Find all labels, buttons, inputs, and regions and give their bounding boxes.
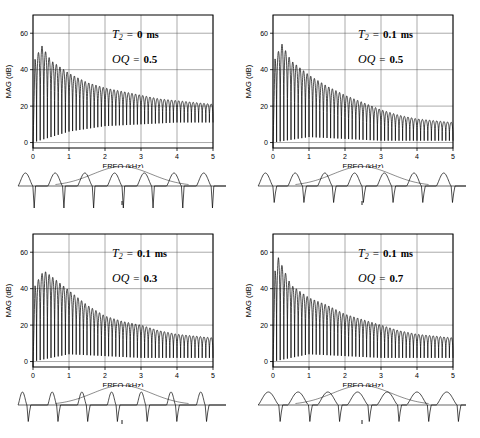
waveform-trace — [258, 392, 466, 422]
x-tick-label: 3 — [139, 153, 143, 160]
x-tick-label: 1 — [307, 153, 311, 160]
y-tick-label: 0 — [24, 358, 28, 365]
window-envelope-arc — [55, 386, 188, 404]
panel-top-left: 0123450204060FREQ (kHz)MAG (dB) T2=0 ms … — [0, 0, 240, 219]
t2-symbol: T — [358, 27, 365, 41]
window-envelope-arc — [295, 386, 428, 404]
y-tick-label: 60 — [20, 249, 28, 256]
equals-sign: = — [369, 247, 383, 259]
y-axis-label: MAG (dB) — [4, 283, 13, 317]
y-axis-label: MAG (dB) — [4, 64, 13, 98]
y-tick-label: 40 — [260, 66, 268, 73]
x-tick-label: 4 — [415, 372, 419, 379]
oq-value: 0.7 — [390, 272, 404, 284]
waveform-trace — [18, 392, 226, 422]
oq-symbol: OQ — [112, 52, 129, 66]
x-tick-label: 0 — [31, 372, 35, 379]
oq-value: 0.5 — [144, 53, 158, 65]
t2-unit: ms — [146, 29, 158, 40]
x-tick-label: 4 — [175, 372, 179, 379]
annotation-t2-bottom-right: T2=0.1 ms — [358, 243, 413, 261]
y-tick-label: 40 — [20, 285, 28, 292]
oq-symbol: OQ — [358, 52, 375, 66]
waveform-strip-top-left — [0, 164, 240, 219]
t2-value: 0 — [137, 28, 143, 40]
x-tick-label: 1 — [67, 153, 71, 160]
t2-symbol: T — [112, 27, 119, 41]
equals-sign: = — [369, 28, 383, 40]
x-tick-label: 0 — [271, 372, 275, 379]
y-tick-label: 60 — [260, 30, 268, 37]
waveform-strip-bottom-right — [240, 383, 480, 438]
y-axis-label: MAG (dB) — [244, 64, 253, 98]
x-tick-label: 5 — [211, 372, 215, 379]
x-tick-label: 3 — [139, 372, 143, 379]
oq-symbol: OQ — [112, 271, 129, 285]
x-tick-label: 2 — [103, 153, 107, 160]
t2-value: 0.1 — [383, 28, 397, 40]
y-tick-label: 0 — [264, 139, 268, 146]
x-tick-label: 0 — [271, 153, 275, 160]
t2-value: 0.1 — [137, 247, 151, 259]
x-tick-label: 5 — [451, 372, 455, 379]
panel-top-right: 0123450204060FREQ (kHz)MAG (dB) T2=0.1 m… — [240, 0, 480, 219]
equals-sign: = — [129, 272, 143, 284]
y-axis-label: MAG (dB) — [244, 283, 253, 317]
waveform-svg — [240, 383, 480, 438]
equals-sign: = — [123, 28, 137, 40]
annotation-oq-bottom-left: OQ=0.3 — [112, 268, 157, 286]
y-tick-label: 40 — [20, 66, 28, 73]
annotation-oq-top-left: OQ=0.5 — [112, 49, 157, 67]
spectrum-trace — [33, 272, 213, 367]
t2-unit: ms — [401, 29, 413, 40]
annotation-oq-top-right: OQ=0.5 — [358, 49, 403, 67]
y-tick-label: 20 — [20, 322, 28, 329]
waveform-svg — [0, 164, 240, 219]
equals-sign: = — [123, 247, 137, 259]
figure-glottal-source-spectra: 0123450204060FREQ (kHz)MAG (dB) T2=0 ms … — [0, 0, 480, 438]
annotation-t2-top-right: T2=0.1 ms — [358, 24, 413, 42]
y-tick-label: 20 — [20, 103, 28, 110]
x-tick-label: 5 — [451, 153, 455, 160]
x-tick-label: 4 — [415, 153, 419, 160]
t2-symbol: T — [358, 246, 365, 260]
oq-value: 0.3 — [144, 272, 158, 284]
x-tick-label: 2 — [343, 153, 347, 160]
y-tick-label: 20 — [260, 103, 268, 110]
y-tick-label: 60 — [260, 249, 268, 256]
oq-symbol: OQ — [358, 271, 375, 285]
waveform-strip-bottom-left — [0, 383, 240, 438]
y-tick-label: 0 — [264, 358, 268, 365]
y-tick-label: 60 — [20, 30, 28, 37]
oq-value: 0.5 — [390, 53, 404, 65]
x-tick-label: 5 — [211, 153, 215, 160]
equals-sign: = — [375, 53, 389, 65]
waveform-svg — [240, 164, 480, 219]
equals-sign: = — [375, 272, 389, 284]
x-tick-label: 1 — [307, 372, 311, 379]
y-tick-label: 20 — [260, 322, 268, 329]
waveform-svg — [0, 383, 240, 438]
x-tick-label: 2 — [343, 372, 347, 379]
t2-unit: ms — [401, 248, 413, 259]
t2-symbol: T — [112, 246, 119, 260]
annotation-oq-bottom-right: OQ=0.7 — [358, 268, 403, 286]
waveform-strip-top-right — [240, 164, 480, 219]
x-tick-label: 3 — [379, 153, 383, 160]
y-tick-label: 40 — [260, 285, 268, 292]
annotation-t2-bottom-left: T2=0.1 ms — [112, 243, 167, 261]
x-tick-label: 3 — [379, 372, 383, 379]
waveform-trace — [258, 173, 466, 203]
t2-unit: ms — [155, 248, 167, 259]
y-tick-label: 0 — [24, 139, 28, 146]
panel-bottom-left: 0123450204060FREQ (kHz)MAG (dB) T2=0.1 m… — [0, 219, 240, 438]
x-tick-label: 4 — [175, 153, 179, 160]
x-tick-label: 2 — [103, 372, 107, 379]
annotation-t2-top-left: T2=0 ms — [112, 24, 159, 42]
x-tick-label: 1 — [67, 372, 71, 379]
equals-sign: = — [129, 53, 143, 65]
x-tick-label: 0 — [31, 153, 35, 160]
panel-bottom-right: 0123450204060FREQ (kHz)MAG (dB) T2=0.1 m… — [240, 219, 480, 438]
t2-value: 0.1 — [383, 247, 397, 259]
